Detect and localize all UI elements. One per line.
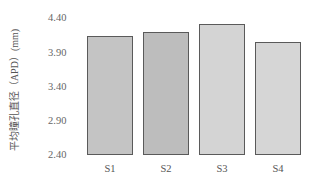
y-tick: 2.40 — [48, 149, 66, 160]
x-tick-label: S4 — [255, 163, 301, 174]
x-tick-label: S2 — [143, 163, 189, 174]
x-tick-label: S1 — [87, 163, 133, 174]
bar-s3 — [199, 24, 245, 155]
bar-s4 — [255, 42, 301, 155]
y-axis-label: 平均瞳孔直径（APD）(mm) — [6, 29, 21, 151]
bar-s2 — [143, 32, 189, 155]
x-tick-label: S3 — [199, 163, 245, 174]
y-tick: 3.40 — [48, 81, 66, 92]
bar-s1 — [87, 36, 133, 155]
y-tick: 3.90 — [48, 47, 66, 58]
y-tick: 4.40 — [48, 12, 66, 23]
y-tick: 2.90 — [48, 115, 66, 126]
